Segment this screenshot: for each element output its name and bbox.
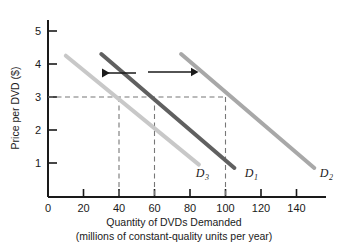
y-tick-label-5: 5 [35, 25, 41, 37]
x-tick-label-120: 120 [252, 202, 270, 214]
x-tick-label-0: 0 [45, 202, 51, 214]
x-axis-ticks [48, 189, 297, 197]
demand-curve-d1 [101, 54, 234, 168]
x-axis-title: Quantity of DVDs Demanded [106, 216, 242, 228]
d2-label-letter: D [319, 166, 329, 180]
y-axis-tick-labels: 5 4 3 2 1 [35, 25, 41, 169]
chart-svg: 5 4 3 2 1 0 20 40 60 80 100 120 140 [0, 0, 348, 248]
x-axis-tick-labels: 0 20 40 60 80 100 120 140 [45, 202, 306, 214]
x-tick-label-100: 100 [216, 202, 234, 214]
x-tick-label-20: 20 [77, 202, 89, 214]
d3-label-subscript: 3 [204, 173, 209, 182]
x-tick-label-40: 40 [113, 202, 125, 214]
y-tick-label-4: 4 [35, 58, 41, 70]
demand-curve-shift-chart: 5 4 3 2 1 0 20 40 60 80 100 120 140 [0, 0, 348, 248]
y-tick-label-3: 3 [35, 91, 41, 103]
d1-label-letter: D [244, 166, 254, 180]
y-tick-label-2: 2 [35, 124, 41, 136]
demand-curve-d2 [181, 54, 314, 168]
x-tick-label-60: 60 [148, 202, 160, 214]
axes [48, 20, 326, 197]
x-axis-subtitle: (millions of constant-quality units per … [76, 230, 273, 242]
y-tick-label-1: 1 [35, 157, 41, 169]
d2-label-subscript: 2 [329, 173, 333, 182]
demand-curve-label-d3: D 3 [195, 166, 209, 182]
x-tick-label-140: 140 [287, 202, 305, 214]
shift-arrows [102, 72, 192, 73]
d3-label-letter: D [195, 166, 205, 180]
x-tick-label-80: 80 [184, 202, 196, 214]
demand-curves [66, 54, 314, 168]
d1-label-subscript: 1 [254, 173, 258, 182]
demand-curve-label-d2: D 2 [319, 166, 333, 182]
demand-curve-label-d1: D 1 [244, 166, 258, 182]
y-axis-title: Price per DVD ($) [9, 67, 21, 150]
